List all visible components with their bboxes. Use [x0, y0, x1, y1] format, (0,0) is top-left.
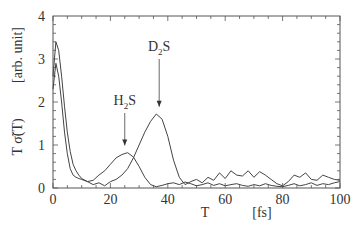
annotation-label: H2S: [114, 93, 136, 111]
x-tick-label: 60: [218, 192, 232, 207]
chart: 02040608010001234T[fs]T σ̃(T)[arb. unit]…: [0, 0, 357, 233]
arrow-head-icon: [157, 101, 162, 107]
x-axis-unit: [fs]: [252, 205, 271, 220]
series-line-h2s: [53, 63, 340, 186]
x-tick-label: 20: [103, 192, 117, 207]
y-tick-label: 0: [38, 181, 45, 196]
plot-frame: [53, 16, 340, 188]
x-tick-label: 100: [330, 192, 351, 207]
x-tick-label: 80: [276, 192, 290, 207]
y-tick-label: 3: [38, 52, 45, 67]
series-line-d2s: [53, 42, 340, 186]
x-tick-label: 40: [161, 192, 175, 207]
y-tick-label: 2: [38, 95, 45, 110]
y-axis-label: T σ̃(T): [10, 118, 26, 156]
x-tick-label: 0: [50, 192, 57, 207]
y-tick-label: 1: [38, 138, 45, 153]
y-tick-label: 4: [38, 9, 45, 24]
x-axis-label: T: [201, 205, 210, 220]
y-axis-unit: [arb. unit]: [10, 27, 25, 83]
annotation-label: D2S: [148, 39, 170, 57]
arrow-head-icon: [122, 139, 127, 145]
